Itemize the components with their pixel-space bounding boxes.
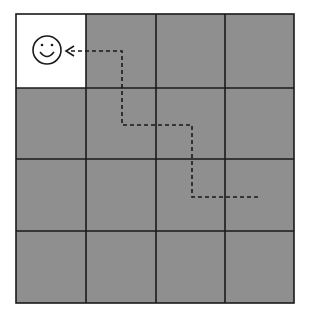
cell-highlight	[16, 14, 86, 88]
grid-world-diagram	[0, 0, 309, 315]
